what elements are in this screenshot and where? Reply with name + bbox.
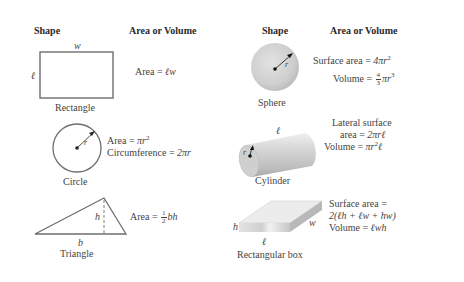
box-var-l: ℓ (262, 236, 266, 247)
box-label: Rectangular box (237, 249, 303, 260)
box-surface-line1: Surface area = (329, 198, 387, 210)
box-surface-line2: 2(ℓh + ℓw + hw) (329, 210, 396, 222)
box-var-h: h (233, 221, 238, 232)
box-shape (0, 0, 464, 282)
box-var-w: w (309, 217, 316, 228)
box-volume-formula: Volume = ℓwh (329, 222, 386, 234)
